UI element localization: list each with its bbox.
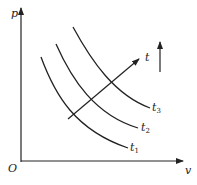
- isotherm-t3: [73, 27, 150, 108]
- curve-label-t3: t3: [152, 102, 161, 115]
- x-axis-label: v: [185, 165, 191, 176]
- y-axis-label: p: [11, 8, 18, 19]
- arrow-label: t: [145, 52, 149, 63]
- isotherm-t1: [41, 57, 128, 148]
- pv-diagram: [0, 0, 197, 185]
- origin-label: O: [8, 163, 17, 174]
- curve-label-t2: t2: [141, 122, 150, 135]
- isotherm-t2: [56, 44, 138, 128]
- curve-label-t1: t1: [130, 142, 139, 155]
